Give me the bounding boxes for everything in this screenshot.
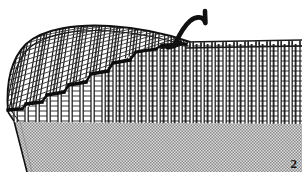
step-seg-2 — [26, 102, 42, 104]
substrate-band-fill — [14, 120, 302, 172]
step-seg-1 — [8, 109, 22, 110]
substrate-band-group — [14, 120, 302, 172]
scientific-figure-illustration — [0, 0, 302, 172]
figure-number-label: 2 — [291, 157, 298, 170]
figure-container: 2 — [0, 0, 302, 172]
